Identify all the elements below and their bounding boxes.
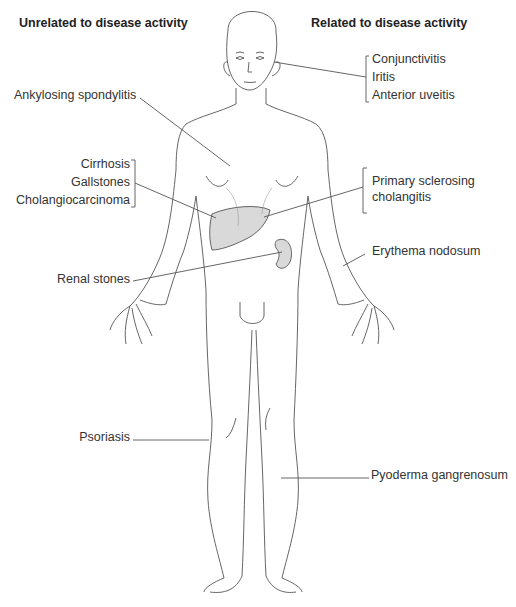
label-conjunctivitis: Conjunctivitis [372, 50, 446, 68]
label-ankylosing-spondylitis: Ankylosing spondylitis [14, 86, 136, 104]
label-psoriasis: Psoriasis [79, 428, 130, 446]
label-cirrhosis: Cirrhosis [81, 155, 130, 173]
label-anterior-uveitis: Anterior uveitis [372, 86, 455, 104]
liver-shape [210, 207, 270, 250]
label-pyoderma-gangrenosum: Pyoderma gangrenosum [371, 466, 508, 484]
label-iritis: Iritis [372, 68, 395, 86]
label-cholangiocarcinoma: Cholangiocarcinoma [16, 191, 130, 209]
label-renal-stones: Renal stones [57, 270, 130, 288]
kidney-shape [275, 239, 291, 268]
label-erythema-nodosum: Erythema nodosum [372, 242, 480, 260]
label-gallstones: Gallstones [71, 173, 130, 191]
label-psc-line2: cholangitis [372, 188, 431, 206]
